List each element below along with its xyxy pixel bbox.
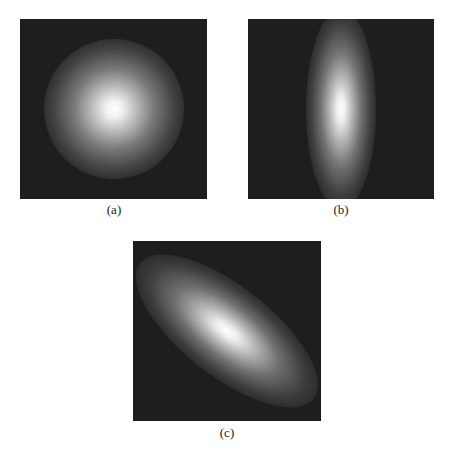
panel-a-isotropic-gaussian bbox=[20, 19, 207, 199]
panel-c-diagonal-gaussian bbox=[133, 241, 321, 421]
gaussian-blob bbox=[306, 19, 376, 199]
gaussian-blob bbox=[133, 241, 321, 421]
caption-c: (c) bbox=[207, 425, 247, 441]
caption-b: (b) bbox=[321, 202, 361, 218]
gaussian-blob bbox=[44, 39, 184, 179]
panel-b-vertical-gaussian bbox=[248, 19, 434, 199]
caption-a: (a) bbox=[94, 202, 134, 218]
